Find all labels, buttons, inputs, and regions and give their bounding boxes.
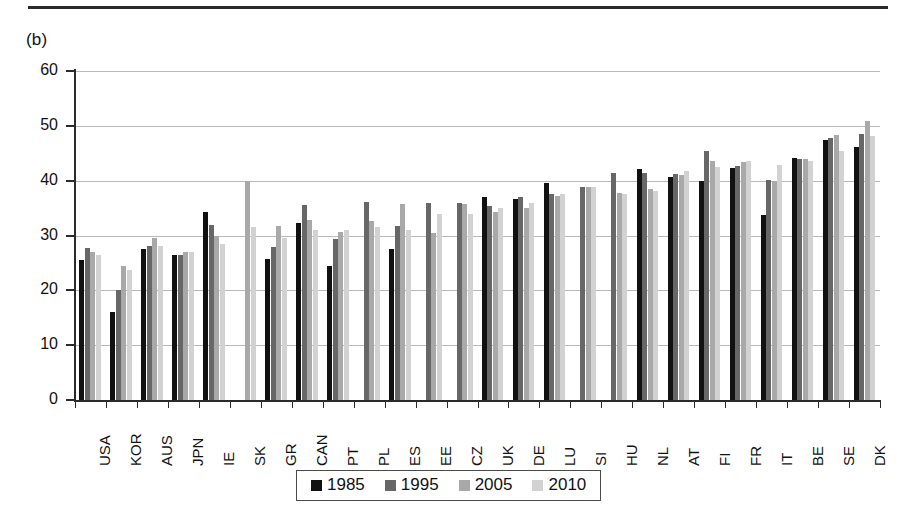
x-tick-mark	[880, 400, 881, 408]
x-tick-mark	[539, 400, 540, 408]
legend-label: 1995	[401, 475, 439, 495]
legend-swatch-icon	[459, 480, 470, 491]
bar	[622, 194, 627, 400]
bar	[741, 162, 746, 400]
bar	[591, 187, 596, 400]
bar	[730, 168, 735, 400]
bar-group	[385, 71, 416, 400]
bar	[462, 204, 467, 400]
bar	[209, 225, 214, 400]
x-tick-mark	[601, 400, 602, 408]
bar	[172, 255, 177, 400]
bar-group	[694, 71, 725, 400]
bar	[79, 260, 84, 400]
x-axis-label: HU	[623, 444, 640, 466]
x-tick-mark	[137, 400, 138, 408]
legend-swatch-icon	[532, 480, 543, 491]
bar	[792, 158, 797, 400]
bar	[668, 177, 673, 400]
bar	[699, 181, 704, 400]
x-axis-label: BE	[809, 446, 826, 466]
x-tick-mark	[849, 400, 850, 408]
bar	[333, 239, 338, 400]
y-tick-label: 30	[20, 226, 58, 244]
x-tick-mark	[354, 400, 355, 408]
bar	[493, 212, 498, 400]
bar-group	[849, 71, 880, 400]
bar	[127, 270, 132, 401]
bar	[110, 312, 115, 400]
bar	[859, 134, 864, 400]
bar	[426, 203, 431, 400]
bar	[141, 249, 146, 400]
x-tick-mark	[323, 400, 324, 408]
bar	[839, 151, 844, 400]
legend-item[interactable]: 2005	[459, 475, 513, 495]
bar	[431, 233, 436, 400]
bar-group	[230, 71, 261, 400]
x-tick-mark	[75, 400, 76, 408]
x-tick-mark	[508, 400, 509, 408]
x-axis-label: PT	[344, 447, 361, 466]
bar	[327, 266, 332, 400]
bar	[653, 191, 658, 400]
legend-item[interactable]: 2010	[532, 475, 586, 495]
bar-group	[75, 71, 106, 400]
bar-group	[539, 71, 570, 400]
bar	[313, 230, 318, 400]
legend-label: 2005	[475, 475, 513, 495]
x-axis-label: UK	[499, 445, 516, 466]
bar	[265, 259, 270, 400]
bar	[147, 246, 152, 400]
y-tick-label: 40	[20, 171, 58, 189]
bar	[307, 220, 312, 400]
x-tick-mark	[570, 400, 571, 408]
x-tick-mark	[168, 400, 169, 408]
bar	[823, 140, 828, 400]
bar	[544, 183, 549, 400]
x-tick-mark	[416, 400, 417, 408]
bar-group	[663, 71, 694, 400]
bar	[518, 197, 523, 400]
bar	[189, 252, 194, 400]
x-tick-mark	[292, 400, 293, 408]
bar	[710, 161, 715, 400]
bar	[766, 180, 771, 400]
x-tick-mark	[385, 400, 386, 408]
legend-item[interactable]: 1985	[311, 475, 365, 495]
bar	[648, 189, 653, 400]
bar-group	[106, 71, 137, 400]
x-axis-label: FR	[747, 446, 764, 466]
bar-group	[199, 71, 230, 400]
x-axis-label: ES	[406, 446, 423, 466]
bar	[828, 138, 833, 400]
bar	[555, 196, 560, 400]
legend-item[interactable]: 1995	[385, 475, 439, 495]
x-axis-label: SE	[840, 446, 857, 466]
bar	[251, 227, 256, 400]
bar	[158, 246, 163, 400]
x-tick-mark	[447, 400, 448, 408]
bar	[865, 121, 870, 400]
x-axis-label: USA	[96, 435, 113, 466]
x-tick-mark	[756, 400, 757, 408]
bar	[96, 255, 101, 400]
x-axis-label: IT	[778, 453, 795, 466]
legend-label: 2010	[548, 475, 586, 495]
bar-group	[756, 71, 787, 400]
bar-group	[570, 71, 601, 400]
bar	[302, 205, 307, 400]
bar	[395, 226, 400, 400]
bar-group	[725, 71, 756, 400]
x-axis-label: CZ	[468, 446, 485, 466]
x-axis-label: FI	[716, 453, 733, 466]
bar	[746, 161, 751, 400]
x-axis-label: KOR	[127, 433, 144, 466]
bar-group	[137, 71, 168, 400]
bar-group	[416, 71, 447, 400]
x-axis-label: PL	[375, 448, 392, 466]
bar	[90, 252, 95, 400]
bar	[178, 255, 183, 400]
x-tick-mark	[694, 400, 695, 408]
x-axis-label: CAN	[313, 434, 330, 466]
